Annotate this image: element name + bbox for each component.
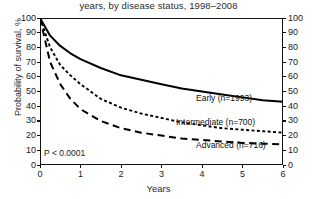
y-tick-label-left: 60 xyxy=(10,72,36,81)
y-tick-mark-right xyxy=(283,120,286,121)
chart-title: years, by disease status, 1998–2008 xyxy=(0,0,317,11)
x-tick-label: 3 xyxy=(152,170,172,179)
y-tick-label-right: 90 xyxy=(288,28,314,37)
x-tick-label: 4 xyxy=(192,170,212,179)
y-tick-label-left: 100 xyxy=(10,14,36,23)
x-tick-mark xyxy=(202,165,203,168)
y-tick-mark-left xyxy=(37,150,40,151)
y-tick-mark-left xyxy=(37,18,40,19)
y-tick-mark-right xyxy=(283,150,286,151)
y-tick-mark-right xyxy=(283,76,286,77)
y-tick-label-left: 90 xyxy=(10,28,36,37)
y-tick-label-right: 60 xyxy=(288,72,314,81)
y-tick-mark-left xyxy=(37,47,40,48)
curve-intermediate xyxy=(40,18,283,133)
series-label-early: Early (n=1993) xyxy=(196,93,252,103)
y-tick-label-left: 10 xyxy=(10,146,36,155)
p-value-annotation: P < 0.0001 xyxy=(44,148,85,158)
y-tick-label-left: 50 xyxy=(10,87,36,96)
y-tick-mark-left xyxy=(37,91,40,92)
y-tick-label-left: 0 xyxy=(10,161,36,170)
y-tick-label-right: 70 xyxy=(288,58,314,67)
y-tick-label-right: 30 xyxy=(288,116,314,125)
y-tick-mark-left xyxy=(37,62,40,63)
y-tick-mark-right xyxy=(283,106,286,107)
y-tick-mark-right xyxy=(283,91,286,92)
y-tick-label-right: 50 xyxy=(288,87,314,96)
y-tick-mark-right xyxy=(283,47,286,48)
y-tick-mark-left xyxy=(37,32,40,33)
y-tick-mark-left xyxy=(37,120,40,121)
y-tick-label-left: 80 xyxy=(10,43,36,52)
survival-chart: years, by disease status, 1998–2008 Prob… xyxy=(0,0,317,199)
x-tick-mark xyxy=(283,165,284,168)
y-tick-label-right: 40 xyxy=(288,102,314,111)
y-tick-label-left: 40 xyxy=(10,102,36,111)
x-tick-label: 5 xyxy=(233,170,253,179)
y-tick-label-left: 70 xyxy=(10,58,36,67)
x-tick-mark xyxy=(121,165,122,168)
y-tick-mark-right xyxy=(283,62,286,63)
x-tick-label: 0 xyxy=(30,170,50,179)
x-axis-label: Years xyxy=(0,183,317,194)
x-tick-label: 2 xyxy=(111,170,131,179)
x-tick-mark xyxy=(242,165,243,168)
y-tick-label-right: 0 xyxy=(288,161,314,170)
y-tick-label-right: 100 xyxy=(288,14,314,23)
y-tick-label-right: 10 xyxy=(288,146,314,155)
x-tick-mark xyxy=(161,165,162,168)
y-tick-label-left: 30 xyxy=(10,116,36,125)
y-tick-mark-left xyxy=(37,135,40,136)
x-tick-label: 6 xyxy=(273,170,293,179)
x-tick-label: 1 xyxy=(71,170,91,179)
y-tick-mark-right xyxy=(283,135,286,136)
y-tick-mark-right xyxy=(283,32,286,33)
y-tick-mark-right xyxy=(283,18,286,19)
series-label-intermediate: Intermediate (n=700) xyxy=(176,117,255,127)
y-tick-label-left: 20 xyxy=(10,131,36,140)
y-tick-label-right: 20 xyxy=(288,131,314,140)
y-tick-mark-left xyxy=(37,106,40,107)
x-tick-mark xyxy=(80,165,81,168)
series-label-advanced: Advanced (n=716) xyxy=(196,140,266,150)
y-tick-label-right: 80 xyxy=(288,43,314,52)
y-tick-mark-left xyxy=(37,76,40,77)
x-tick-mark xyxy=(40,165,41,168)
curve-early xyxy=(40,18,283,102)
